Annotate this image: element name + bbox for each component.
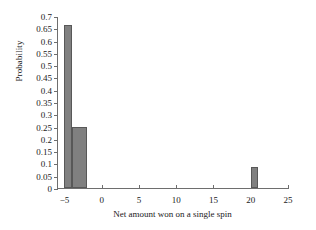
y-tick-mark xyxy=(54,189,58,190)
y-tick-mark xyxy=(54,115,58,116)
y-tick-label: 0.1 xyxy=(41,160,52,169)
x-tick-label: 10 xyxy=(172,196,181,205)
x-tick-label: 25 xyxy=(284,196,293,205)
y-tick-label: 0 xyxy=(48,185,53,194)
x-tick-mark xyxy=(176,185,177,189)
y-tick-label: 0.55 xyxy=(36,49,52,58)
x-tick-mark xyxy=(102,185,103,189)
y-tick-mark xyxy=(54,164,58,165)
x-axis-line xyxy=(57,188,288,189)
y-tick-label: 0.2 xyxy=(41,135,52,144)
y-tick-label: 0.3 xyxy=(41,111,52,120)
y-tick-mark xyxy=(54,103,58,104)
bar xyxy=(251,167,258,188)
y-tick-mark xyxy=(54,29,58,30)
y-tick-mark xyxy=(54,91,58,92)
y-tick-mark xyxy=(54,17,58,18)
y-tick-label: 0.5 xyxy=(41,62,52,71)
y-tick-label: 0.35 xyxy=(36,99,52,108)
plot-area: 00.050.10.150.20.250.30.350.40.450.50.55… xyxy=(57,17,288,189)
x-tick-label: 15 xyxy=(209,196,218,205)
y-tick-mark xyxy=(54,152,58,153)
x-tick-label: 20 xyxy=(246,196,255,205)
x-tick-mark xyxy=(139,185,140,189)
x-tick-mark xyxy=(213,185,214,189)
y-tick-mark xyxy=(54,177,58,178)
y-tick-label: 0.25 xyxy=(36,123,52,132)
x-axis-title: Net amount won on a single spin xyxy=(57,209,288,219)
x-tick-label: 0 xyxy=(99,196,104,205)
y-tick-label: 0.65 xyxy=(36,25,52,34)
y-axis-title: Probability xyxy=(14,16,24,106)
y-tick-mark xyxy=(54,78,58,79)
x-tick-mark xyxy=(288,185,289,189)
probability-bar-chart: Probability 00.050.10.150.20.250.30.350.… xyxy=(0,0,316,230)
y-tick-mark xyxy=(54,42,58,43)
x-tick-label: −5 xyxy=(60,196,70,205)
y-tick-label: 0.6 xyxy=(41,37,52,46)
y-tick-label: 0.05 xyxy=(36,172,52,181)
x-tick-label: 5 xyxy=(137,196,142,205)
y-tick-label: 0.7 xyxy=(41,13,52,22)
y-tick-label: 0.15 xyxy=(36,148,52,157)
bar xyxy=(72,127,87,188)
y-tick-label: 0.4 xyxy=(41,86,52,95)
y-tick-mark xyxy=(54,54,58,55)
y-tick-label: 0.45 xyxy=(36,74,52,83)
y-tick-mark xyxy=(54,140,58,141)
y-tick-mark xyxy=(54,128,58,129)
bar xyxy=(64,25,71,188)
y-tick-mark xyxy=(54,66,58,67)
